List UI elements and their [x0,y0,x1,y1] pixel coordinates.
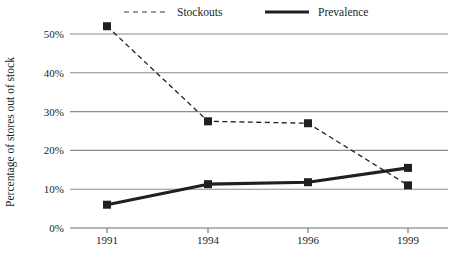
y-tick-label: 10% [30,183,64,195]
y-tick-label: 0% [30,222,64,234]
series-markers-prevalence [103,164,412,209]
y-tick-label: 20% [30,144,64,156]
y-tick-label: 30% [30,106,64,118]
plot-area [0,0,464,260]
x-tick-label: 1991 [96,234,118,246]
series-line-prevalence [107,168,408,205]
series-line-stockouts [107,26,408,185]
y-tick-label: 50% [30,28,64,40]
x-tick-label: 1996 [297,234,319,246]
chart-figure: Stockouts Prevalence Percentage of store… [0,0,464,260]
x-tick-label: 1999 [397,234,419,246]
gridlines [70,34,448,189]
y-tick-label: 40% [30,67,64,79]
plot-canvas [0,0,464,260]
x-tick-label: 1994 [197,234,219,246]
series-markers-stockouts [103,22,412,189]
x-axis-ticks [107,228,408,233]
